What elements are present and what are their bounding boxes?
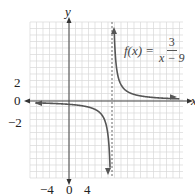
function-graph <box>0 0 195 196</box>
formula-numerator: 3 <box>167 35 177 51</box>
x-tick-label: 4 <box>84 183 91 196</box>
formula-lhs: f(x) = <box>124 43 154 59</box>
x-axis-left-arrow-icon <box>24 99 30 104</box>
formula-denominator: x − 9 <box>157 51 186 66</box>
formula-fraction: 3 x − 9 <box>157 35 186 66</box>
x-axis-label: x <box>191 94 195 107</box>
y-axis-label: y <box>65 5 71 18</box>
x-tick-label: 0 <box>66 183 73 196</box>
x-tick-label: −4 <box>40 183 54 196</box>
y-tick-label: 0 <box>14 94 21 107</box>
y-tick-label: −2 <box>8 116 22 129</box>
function-formula: f(x) = 3 x − 9 <box>124 35 187 66</box>
left-branch-curve <box>35 103 110 168</box>
y-tick-label: 2 <box>14 76 21 89</box>
